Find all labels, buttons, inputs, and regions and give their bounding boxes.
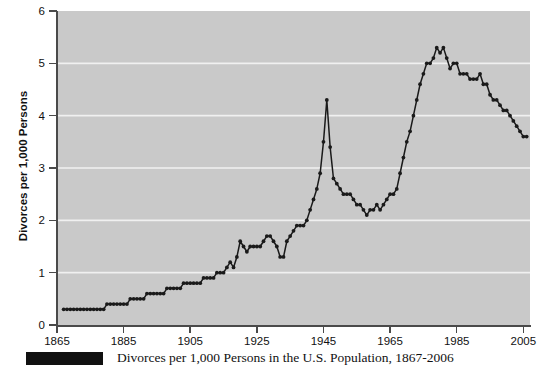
data-point <box>292 229 296 233</box>
data-point <box>325 98 329 102</box>
data-point <box>68 307 72 311</box>
x-tick-mark <box>123 326 125 333</box>
data-point <box>348 192 352 196</box>
data-point <box>475 77 479 81</box>
data-point <box>481 82 485 86</box>
data-point <box>255 245 259 249</box>
y-tick-label: 1 <box>0 268 45 278</box>
x-tick-label: 1865 <box>27 336 87 347</box>
y-tick-label: 0 <box>0 320 45 330</box>
data-point <box>521 135 525 139</box>
data-point <box>451 61 455 65</box>
data-point <box>182 281 186 285</box>
y-tick-mark <box>49 272 57 274</box>
x-tick-mark <box>523 326 525 333</box>
x-tick-label: 1905 <box>160 336 220 347</box>
data-point <box>375 203 379 207</box>
data-point <box>305 218 309 222</box>
data-point <box>525 135 529 139</box>
divorce-rate-line <box>64 48 527 310</box>
chart-plot-svg <box>57 11 530 325</box>
data-point <box>148 292 152 296</box>
data-point <box>112 302 116 306</box>
y-tick-mark <box>49 167 57 169</box>
data-point <box>501 109 505 113</box>
data-point <box>105 302 109 306</box>
data-point <box>168 286 172 290</box>
data-point <box>505 109 509 113</box>
data-point <box>225 266 229 270</box>
x-tick-mark <box>456 326 458 333</box>
data-point <box>78 307 82 311</box>
data-point <box>115 302 119 306</box>
data-point <box>491 98 495 102</box>
y-tick-label: 5 <box>0 58 45 68</box>
x-tick-label: 2005 <box>493 336 552 347</box>
y-tick-mark <box>49 220 57 222</box>
data-point <box>162 292 166 296</box>
data-point <box>278 255 282 259</box>
data-point <box>175 286 179 290</box>
data-point <box>338 187 342 191</box>
data-point <box>232 266 236 270</box>
data-point <box>132 297 136 301</box>
caption-swatch <box>26 352 103 365</box>
data-point <box>208 276 212 280</box>
data-point <box>358 203 362 207</box>
data-point <box>185 281 189 285</box>
y-tick-label: 2 <box>0 215 45 225</box>
data-point <box>412 114 416 118</box>
data-point <box>262 239 266 243</box>
data-point <box>125 302 129 306</box>
data-point <box>85 307 89 311</box>
data-point <box>72 307 76 311</box>
data-point <box>342 192 346 196</box>
data-point <box>515 124 519 128</box>
data-point <box>228 260 232 264</box>
x-tick-mark <box>323 326 325 333</box>
data-point <box>128 297 132 301</box>
data-point <box>352 198 356 202</box>
data-point <box>402 156 406 160</box>
data-point <box>65 307 69 311</box>
x-tick-mark <box>256 326 258 333</box>
x-tick-label: 1925 <box>227 336 287 347</box>
y-tick-mark <box>49 63 57 65</box>
x-tick-label: 1985 <box>427 336 487 347</box>
data-point <box>172 286 176 290</box>
data-point <box>118 302 122 306</box>
data-point <box>298 224 302 228</box>
data-point <box>138 297 142 301</box>
data-point <box>212 276 216 280</box>
data-point <box>75 307 79 311</box>
x-tick-mark <box>389 326 391 333</box>
data-point <box>142 297 146 301</box>
data-point <box>288 234 292 238</box>
data-point <box>448 67 452 71</box>
y-tick-mark <box>49 115 57 117</box>
data-point <box>465 72 469 76</box>
data-point <box>488 93 492 97</box>
data-point <box>248 245 252 249</box>
data-point <box>435 46 439 50</box>
data-point <box>495 98 499 102</box>
data-point <box>455 61 459 65</box>
data-point <box>88 307 92 311</box>
gridlines <box>57 63 530 272</box>
data-point <box>392 192 396 196</box>
data-point <box>332 177 336 181</box>
data-point <box>135 297 139 301</box>
data-point <box>385 198 389 202</box>
y-tick-mark <box>49 10 57 12</box>
data-point <box>108 302 112 306</box>
data-point <box>178 286 182 290</box>
data-point <box>198 281 202 285</box>
x-tick-mark <box>56 326 58 333</box>
data-point <box>322 140 326 144</box>
data-point <box>498 103 502 107</box>
data-point <box>458 72 462 76</box>
data-point <box>428 61 432 65</box>
data-point <box>328 145 332 149</box>
data-point <box>398 171 402 175</box>
data-point <box>418 82 422 86</box>
